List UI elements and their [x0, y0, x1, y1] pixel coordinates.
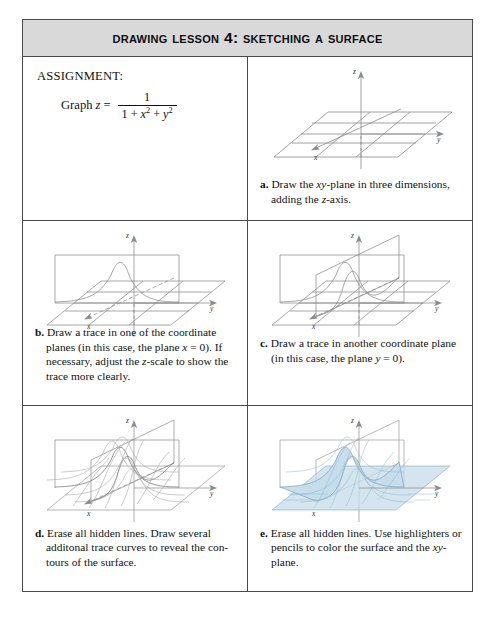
panel-c-figure: z y x [258, 225, 463, 343]
assignment-label: ASSIGNMENT: [37, 69, 237, 84]
panel-a-caption: a. Draw the xy-plane in three dimensions… [260, 177, 465, 206]
axis-label-y: y [436, 135, 441, 144]
lesson-header: Drawing Lesson 4: Sketching a Surface [23, 20, 472, 57]
axis-label-x: x [86, 509, 91, 518]
assignment-block: ASSIGNMENT: Graph z = 1 1 + x2 + y2 [23, 57, 247, 121]
panel-e-letter: e. [260, 527, 268, 539]
page-title: Drawing Lesson 4: Sketching a Surface [112, 29, 382, 47]
axis-label-y: y [209, 489, 214, 498]
lesson-table: Drawing Lesson 4: Sketching a Surface AS… [22, 19, 473, 592]
axis-label-z: z [125, 231, 129, 240]
axis-label-y: y [209, 304, 214, 313]
fraction-numerator: 1 [138, 91, 156, 105]
panel-e-cell: z y x e. Erase all hidden lines. Use hig… [248, 406, 473, 591]
panel-d-caption: d. Erase all hidden lines. Draw several … [35, 526, 239, 569]
panel-grid: ASSIGNMENT: Graph z = 1 1 + x2 + y2 [23, 57, 472, 591]
panel-d-letter: d. [35, 527, 44, 539]
axis-label-y: y [434, 304, 439, 313]
panel-c-cell: z y x c. Draw a trace in another coordin… [248, 221, 473, 406]
panel-a-cell: z y x a. Draw the xy-plane in three dime… [248, 57, 473, 221]
axis-label-z: z [350, 416, 354, 425]
axis-label-x: x [313, 153, 318, 162]
fraction-denominator: 1 + x2 + y2 [118, 106, 177, 121]
lesson-page: Drawing Lesson 4: Sketching a Surface AS… [0, 0, 495, 618]
panel-d-figure: z y x [33, 410, 238, 530]
panel-c-letter: c. [260, 337, 268, 349]
axis-label-z: z [350, 231, 354, 240]
fraction: 1 1 + x2 + y2 [118, 91, 177, 121]
axis-label-z: z [352, 67, 356, 76]
formula-equals: = [103, 98, 110, 113]
panel-a-letter: a. [260, 178, 269, 190]
panel-e-caption: e. Erase all hidden lines. Use highlight… [260, 526, 465, 569]
panel-b-caption: b. Draw a trace in one of the coordinate… [35, 325, 239, 383]
axis-label-x: x [311, 322, 316, 331]
axis-label-z: z [125, 416, 129, 425]
panel-d-cell: z y x d. Erase all hidden lines. Draw se… [23, 406, 248, 591]
axis-label-y: y [434, 489, 439, 498]
assignment-formula: Graph z = 1 1 + x2 + y2 [61, 91, 237, 121]
formula-variable: z [95, 98, 100, 113]
graph-word: Graph [61, 98, 92, 113]
axis-label-x: x [311, 509, 316, 518]
panel-b-letter: b. [35, 326, 44, 338]
assignment-cell: ASSIGNMENT: Graph z = 1 1 + x2 + y2 [23, 57, 248, 221]
panel-b-cell: z y x b. Draw a trace in one of the coor… [23, 221, 248, 406]
panel-c-caption: c. Draw a trace in another coordinate pl… [260, 336, 465, 365]
panel-e-figure: z y x [258, 410, 463, 530]
panel-a-figure: z y x [256, 57, 466, 175]
